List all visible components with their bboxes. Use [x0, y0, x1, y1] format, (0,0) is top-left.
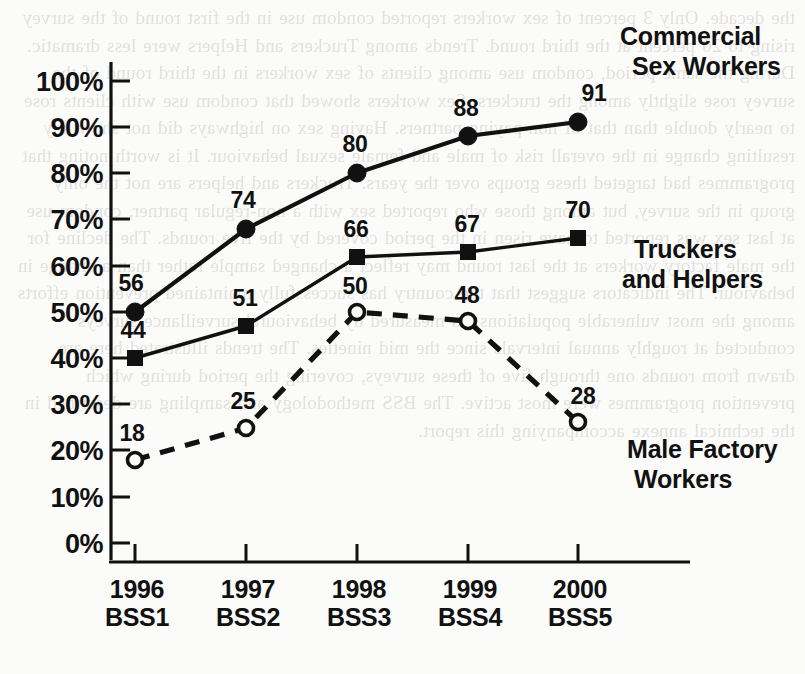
y-tick-label: 60%	[50, 252, 103, 282]
data-point-marker	[571, 231, 586, 246]
y-tick-label: 30%	[50, 390, 103, 420]
data-point-marker	[126, 303, 144, 321]
data-point-label: 48	[455, 282, 480, 308]
x-axis-labels: 1996 BSS1 1997 BSS2 1998 BSS3 1999 BSS4 …	[105, 575, 613, 631]
data-point-marker	[461, 314, 476, 329]
y-tick-label: 40%	[50, 344, 103, 374]
y-tick-label: 10%	[50, 483, 103, 513]
x-tick-label-round: BSS1	[105, 603, 170, 631]
line-chart: 100% 90% 80% 70% 60% 50% 40% 30% 20% 10%…	[0, 0, 805, 674]
data-point-label: 56	[119, 270, 144, 296]
legend-label-line1: Commercial	[620, 22, 761, 50]
data-point-marker	[348, 164, 366, 182]
x-tick-label-year: 2000	[553, 575, 607, 603]
data-point-label: 91	[582, 80, 607, 106]
data-point-marker	[239, 319, 254, 334]
data-point-marker	[128, 351, 143, 366]
y-tick-label: 50%	[50, 298, 103, 328]
legend-commercial-sex-workers: Commercial Sex Workers	[620, 22, 781, 80]
y-tick-label: 80%	[50, 159, 103, 189]
legend-label-line1: Male Factory	[627, 435, 778, 463]
x-tick-label-round: BSS5	[548, 603, 613, 631]
data-point-marker	[459, 127, 477, 145]
data-point-marker	[350, 250, 365, 265]
y-tick-label: 70%	[50, 205, 103, 235]
data-point-label: 70	[566, 197, 591, 223]
legend-label-line2: Sex Workers	[632, 52, 781, 80]
data-point-marker	[461, 245, 476, 260]
data-point-marker	[237, 220, 255, 238]
data-point-marker	[571, 415, 586, 430]
legend-label-line1: Truckers	[634, 235, 737, 263]
x-tick-label-round: BSS3	[327, 603, 391, 631]
data-point-marker	[128, 453, 143, 468]
data-point-label: 51	[233, 285, 258, 311]
data-point-label: 88	[454, 95, 479, 121]
data-point-label: 28	[571, 383, 596, 409]
legend-label-line2: Workers	[634, 465, 732, 493]
x-tick-label-year: 1998	[332, 575, 387, 603]
data-point-label: 67	[455, 211, 480, 237]
data-point-marker	[239, 421, 254, 436]
data-point-label: 66	[344, 216, 369, 242]
data-point-label: 18	[120, 420, 145, 446]
y-tick-label: 90%	[50, 113, 103, 143]
x-tick-label-year: 1996	[110, 575, 164, 603]
legend-label-line2: and Helpers	[622, 265, 763, 293]
x-tick-label-year: 1999	[443, 575, 497, 603]
series-male-factory-workers: 18 25 50 48 28	[120, 273, 596, 468]
data-point-label: 80	[343, 131, 368, 157]
data-point-marker	[350, 305, 365, 320]
y-tick-label: 20%	[50, 436, 103, 466]
x-tick-label-year: 1997	[221, 575, 275, 603]
series-line-male-factory-workers	[135, 312, 578, 460]
x-axis-ticks	[135, 544, 578, 562]
data-point-label: 74	[231, 187, 256, 213]
data-point-label: 50	[343, 273, 368, 299]
chart-page: the decade. Only 3 percent of sex worker…	[0, 0, 805, 674]
y-tick-label: 100%	[36, 67, 104, 97]
data-point-label: 25	[231, 388, 256, 414]
x-tick-label-round: BSS4	[438, 603, 503, 631]
x-tick-label-round: BSS2	[216, 603, 280, 631]
legend-truckers-and-helpers: Truckers and Helpers	[622, 235, 763, 293]
data-point-marker	[569, 113, 587, 131]
y-tick-label: 0%	[65, 529, 104, 559]
legend-male-factory-workers: Male Factory Workers	[627, 435, 778, 493]
y-axis-labels: 100% 90% 80% 70% 60% 50% 40% 30% 20% 10%…	[36, 67, 104, 559]
